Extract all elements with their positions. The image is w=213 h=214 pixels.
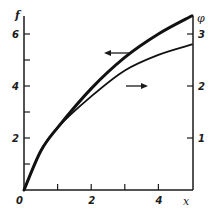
series-f-line — [24, 16, 192, 190]
right-tick-label: 2 — [198, 81, 205, 92]
left-tick-label: 6 — [12, 29, 19, 40]
origin-label: 0 — [16, 195, 23, 206]
left-tick-label: 2 — [12, 133, 19, 144]
x-axis: 0 x 24 — [16, 184, 193, 208]
series-lines — [24, 16, 192, 190]
right-tick-label: 3 — [198, 29, 205, 40]
right-axis-label: φ — [197, 12, 205, 25]
x-tick-label: 4 — [154, 195, 162, 206]
left-axis: f 246 — [11, 9, 30, 190]
arrow-right-series-phi — [126, 83, 148, 89]
right-axis: φ 123 — [187, 12, 205, 190]
right-tick-label: 1 — [198, 133, 205, 144]
series-phi-line — [24, 44, 192, 190]
dual-axis-line-chart: f 246 φ 123 0 x 24 — [0, 0, 213, 214]
left-tick-label: 4 — [11, 81, 19, 92]
left-axis-label: f — [14, 9, 22, 22]
x-tick-label: 2 — [88, 195, 95, 206]
x-axis-label: x — [183, 195, 190, 208]
